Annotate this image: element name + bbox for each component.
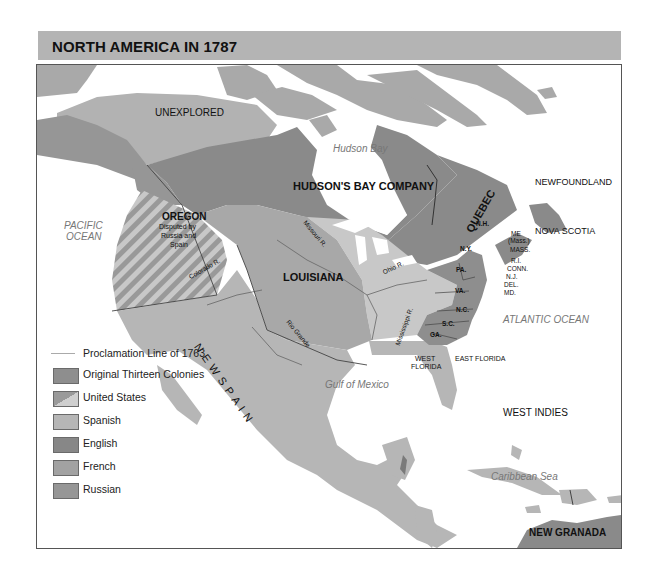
label-oregon: OREGON <box>162 211 206 222</box>
label-nj: N.J. <box>506 273 518 280</box>
label-oregon-note-3: Spain <box>170 241 188 248</box>
label-ga: GA. <box>430 331 442 338</box>
swatch-english-icon <box>53 437 79 453</box>
label-oregon-note-1: Disputed by <box>159 223 196 230</box>
swatch-united-states-icon <box>53 391 79 407</box>
label-me: ME <box>511 230 521 237</box>
label-gulf: Gulf of Mexico <box>325 379 389 390</box>
label-ri: R.I. <box>511 257 521 264</box>
label-louisiana: LOUISIANA <box>283 271 344 283</box>
label-hudson-bay: Hudson Bay <box>333 143 387 154</box>
swatch-spanish-icon <box>53 414 79 430</box>
map-frame: UNEXPLORED HUDSON'S BAY COMPANY Hudson B… <box>36 64 622 549</box>
label-unexplored: UNEXPLORED <box>155 107 224 118</box>
label-pacific-1: PACIFIC <box>64 220 103 231</box>
label-west-florida-2: FLORIDA <box>411 363 441 370</box>
label-hudsons-bay-company: HUDSON'S BAY COMPANY <box>293 180 434 192</box>
label-atlantic: ATLANTIC OCEAN <box>503 314 589 325</box>
map-title: NORTH AMERICA IN 1787 <box>52 38 237 55</box>
label-del: DEL. <box>504 281 518 288</box>
label-nova-scotia: NOVA SCOTIA <box>535 226 595 236</box>
swatch-french-icon <box>53 460 79 476</box>
label-md: MD. <box>504 289 516 296</box>
label-pacific-2: OCEAN <box>66 231 102 242</box>
label-conn: CONN. <box>507 265 528 272</box>
label-east-florida: EAST FLORIDA <box>455 355 505 362</box>
florida-region <box>369 341 457 410</box>
swatch-original-thirteen-icon <box>53 368 79 384</box>
label-newfoundland: NEWFOUNDLAND <box>535 177 612 187</box>
label-nh: N.H. <box>476 220 489 227</box>
label-me-mass: (Mass.) <box>508 237 530 244</box>
label-ny: N.Y. <box>460 245 472 252</box>
label-va: VA. <box>455 287 465 294</box>
label-west-indies: WEST INDIES <box>503 407 568 418</box>
label-west-florida-1: WEST <box>415 355 435 362</box>
label-nc: N.C. <box>456 306 469 313</box>
label-caribbean: Caribbean Sea <box>491 471 558 482</box>
label-new-granada: NEW GRANADA <box>529 527 606 538</box>
swatch-russian-icon <box>53 483 79 499</box>
label-mass: MASS. <box>510 246 530 253</box>
label-sc: S.C. <box>442 320 455 327</box>
proclamation-line-icon <box>51 353 75 354</box>
label-pa: PA. <box>456 266 466 273</box>
title-band: NORTH AMERICA IN 1787 <box>38 31 621 60</box>
label-oregon-note-2: Russia and <box>161 232 196 239</box>
